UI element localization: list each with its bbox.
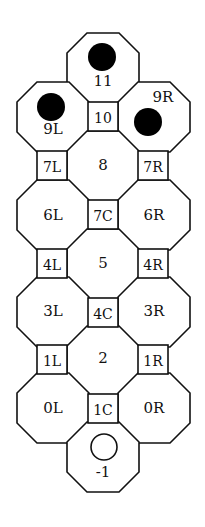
space-label: 11 <box>93 72 112 90</box>
space-label: 0R <box>144 399 166 417</box>
filled-token-icon[interactable] <box>134 108 162 136</box>
filled-token-icon[interactable] <box>88 43 116 71</box>
space-label: 10 <box>94 110 112 126</box>
board-diagram: 119L9R86L6R53L3R20L0R-1 107L7R7C4L4R4C1L… <box>0 0 205 527</box>
space-label: 5 <box>98 254 108 272</box>
space-label: 1R <box>143 353 163 369</box>
space-label: 0L <box>43 399 63 417</box>
empty-token-icon[interactable] <box>91 434 117 460</box>
space-label: 7R <box>143 159 163 175</box>
space-label: 1L <box>43 353 61 369</box>
space-label: 2 <box>98 349 108 367</box>
space-4L[interactable]: 4L <box>37 249 67 278</box>
space-1R[interactable]: 1R <box>138 345 168 374</box>
space-1L[interactable]: 1L <box>37 345 67 374</box>
space-label: 8 <box>98 156 108 174</box>
space-label: 9L <box>43 120 63 138</box>
space-label: 4R <box>143 257 163 273</box>
space-label: -1 <box>96 463 111 481</box>
space-label: 6R <box>144 206 166 224</box>
space-10[interactable]: 10 <box>88 102 118 131</box>
space-label: 7L <box>43 159 61 175</box>
space-7L[interactable]: 7L <box>37 151 67 180</box>
space-label: 7C <box>93 208 113 224</box>
space-label: 4C <box>93 306 113 322</box>
space-label: 3R <box>144 302 166 320</box>
board-canvas: 119L9R86L6R53L3R20L0R-1 107L7R7C4L4R4C1L… <box>0 0 205 527</box>
filled-token-icon[interactable] <box>37 93 65 121</box>
space-label: 9R <box>153 88 175 106</box>
space-label: 3L <box>43 302 63 320</box>
space-4R[interactable]: 4R <box>138 249 168 278</box>
space-1C[interactable]: 1C <box>88 394 118 423</box>
space-7C[interactable]: 7C <box>88 200 118 229</box>
space-7R[interactable]: 7R <box>138 151 168 180</box>
space-label: 1C <box>93 402 113 418</box>
space-4C[interactable]: 4C <box>88 298 118 327</box>
space-label: 6L <box>43 206 63 224</box>
space-label: 4L <box>43 257 61 273</box>
